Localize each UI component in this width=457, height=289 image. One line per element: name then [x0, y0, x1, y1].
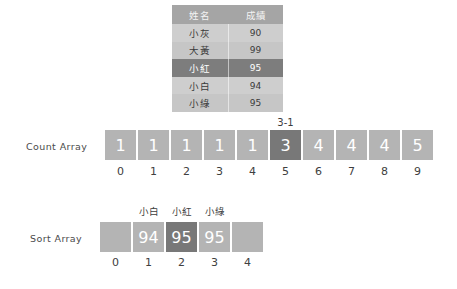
table-cell-score: 95	[228, 94, 283, 112]
annotation-slot	[105, 117, 136, 128]
sort-array-cells: 94 95 95	[100, 222, 263, 252]
annotation-slot	[336, 117, 367, 128]
annotation-slot	[204, 117, 235, 128]
table-header-score: 成績	[228, 5, 283, 24]
count-array-index: 7	[336, 165, 367, 178]
count-array-cell: 4	[336, 130, 367, 160]
table-cell-name: 小紅	[172, 59, 228, 77]
sort-array-name-label: 小白	[133, 204, 164, 218]
table-cell-name: 小灰	[172, 24, 228, 42]
table-cell-name: 小白	[172, 77, 228, 95]
count-array-cell-highlighted: 3	[270, 130, 301, 160]
count-array-index: 1	[138, 165, 169, 178]
count-array-annotation: 3-1	[270, 117, 301, 128]
sort-array-name-label: 小紅	[166, 204, 197, 218]
sort-array-index: 0	[100, 256, 131, 269]
sort-array-name-label	[232, 204, 263, 218]
count-array-index: 3	[204, 165, 235, 178]
count-array-cell: 4	[303, 130, 334, 160]
sort-array-name-labels: 小白 小紅 小綠	[100, 204, 263, 218]
annotation-slot	[171, 117, 202, 128]
count-array-index: 9	[402, 165, 433, 178]
sort-array-name-label: 小綠	[199, 204, 230, 218]
annotation-slot	[369, 117, 400, 128]
annotation-slot	[138, 117, 169, 128]
table-cell-score: 94	[228, 77, 283, 95]
sort-array-index: 3	[199, 256, 230, 269]
table-cell-score: 99	[228, 42, 283, 60]
sort-array-cell: 95	[199, 222, 230, 252]
count-array-cell: 4	[369, 130, 400, 160]
table-cell-score: 95	[228, 59, 283, 77]
count-array-cell: 1	[237, 130, 268, 160]
count-array-index: 2	[171, 165, 202, 178]
sort-array-name-label	[100, 204, 131, 218]
annotation-slot	[237, 117, 268, 128]
annotation-slot	[303, 117, 334, 128]
table-cell-name: 小綠	[172, 94, 228, 112]
count-array-indices: 0 1 2 3 4 5 6 7 8 9	[105, 165, 433, 178]
sort-array-index: 1	[133, 256, 164, 269]
sort-array-cell-empty	[232, 222, 263, 252]
sort-array-label: Sort Array	[30, 233, 82, 244]
count-array-index: 8	[369, 165, 400, 178]
table-cell-score: 90	[228, 24, 283, 42]
sort-array-cell: 94	[133, 222, 164, 252]
count-array-cell: 1	[105, 130, 136, 160]
table-header-name: 姓名	[172, 5, 228, 24]
table-header-row: 姓名 成績	[172, 5, 283, 24]
table-column-divider	[228, 24, 229, 112]
count-array-index: 0	[105, 165, 136, 178]
count-array-index: 4	[237, 165, 268, 178]
sort-array-cell-highlighted: 95	[166, 222, 197, 252]
score-table: 姓名 成績 小灰 90 大黃 99 小紅 95 小白 94 小綠 95	[172, 5, 283, 112]
count-array-cell: 1	[138, 130, 169, 160]
sort-array-cell-empty	[100, 222, 131, 252]
count-array-cell: 1	[171, 130, 202, 160]
count-array-cell: 1	[204, 130, 235, 160]
count-array-cell: 5	[402, 130, 433, 160]
count-array-annotation-row: 3-1	[105, 117, 435, 128]
annotation-slot	[402, 117, 433, 128]
count-array-cells: 1 1 1 1 1 3 4 4 4 5	[105, 130, 433, 160]
count-array-index: 5	[270, 165, 301, 178]
sort-array-index: 2	[166, 256, 197, 269]
table-cell-name: 大黃	[172, 42, 228, 60]
count-array-label: Count Array	[26, 141, 87, 152]
sort-array-indices: 0 1 2 3 4	[100, 256, 263, 269]
sort-array-index: 4	[232, 256, 263, 269]
count-array-index: 6	[303, 165, 334, 178]
